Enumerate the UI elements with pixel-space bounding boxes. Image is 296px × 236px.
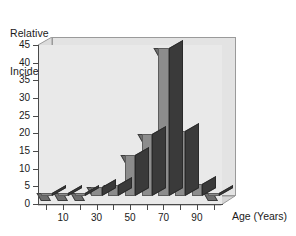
bar	[208, 193, 218, 204]
bar-side-face	[169, 40, 183, 196]
bar-front-face	[41, 193, 51, 196]
y-tick-label: 35	[0, 75, 30, 85]
y-tick-label: 30	[0, 93, 30, 103]
y-tick-label: 25	[0, 111, 30, 121]
y-tick-mark	[33, 116, 38, 117]
bar	[58, 193, 68, 204]
x-tick-mark	[197, 205, 198, 210]
x-tick-label: 30	[84, 212, 110, 223]
bar-front-face	[208, 193, 218, 196]
x-tick-mark	[63, 205, 64, 210]
y-tick-mark	[33, 133, 38, 134]
bar-front-face	[75, 193, 85, 196]
y-tick-mark	[33, 186, 38, 187]
y-tick-label: 20	[0, 128, 30, 138]
bar	[75, 193, 85, 204]
y-tick-label: 40	[0, 58, 30, 68]
x-tick-mark	[180, 205, 181, 210]
y-tick-mark	[33, 98, 38, 99]
y-axis-line	[38, 45, 39, 205]
bar	[41, 193, 51, 204]
x-tick-label: 70	[150, 212, 176, 223]
x-tick-label: 10	[50, 212, 76, 223]
x-tick-label: 50	[117, 212, 143, 223]
y-tick-label: 45	[0, 40, 30, 50]
relative-incidence-bar-chart: Relative Incidence 051015202530354045 10…	[0, 0, 296, 236]
x-axis-title: Age (Years)	[232, 210, 287, 222]
y-tick-mark	[33, 151, 38, 152]
x-tick-mark	[163, 205, 164, 210]
y-tick-mark	[33, 45, 38, 46]
x-tick-mark	[130, 205, 131, 210]
y-tick-mark	[33, 204, 38, 205]
x-tick-mark	[46, 205, 47, 210]
y-tick-label: 10	[0, 164, 30, 174]
bar-front-face	[58, 193, 68, 196]
bar-side-face	[185, 123, 199, 196]
y-tick-mark	[33, 80, 38, 81]
x-tick-mark	[147, 205, 148, 210]
y-tick-label: 0	[0, 199, 30, 209]
bar-side-face	[152, 126, 166, 196]
x-tick-mark	[113, 205, 114, 210]
y-tick-label: 15	[0, 146, 30, 156]
y-tick-mark	[33, 63, 38, 64]
x-tick-label: 90	[184, 212, 210, 223]
bar-side-face	[135, 147, 149, 196]
y-tick-mark	[33, 169, 38, 170]
x-tick-mark	[97, 205, 98, 210]
x-tick-mark	[214, 205, 215, 210]
y-tick-label: 5	[0, 181, 30, 191]
x-tick-mark	[80, 205, 81, 210]
